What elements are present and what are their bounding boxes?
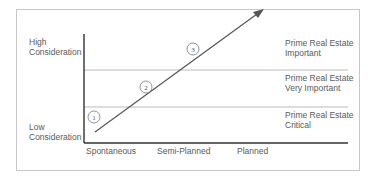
zone-important-line1: Prime Real Estate [285,38,354,48]
zone-label-important: Prime Real Estate Important [285,38,354,58]
x-tick-planned: Planned [237,146,268,156]
svg-text:1: 1 [92,114,96,122]
x-tick-semi-planned: Semi-Planned [157,146,210,156]
zone-very-important-line2: Very Important [285,83,354,93]
trend-arrow-line [95,14,257,132]
arrow-head-icon [253,9,264,18]
zone-very-important-line1: Prime Real Estate [285,73,354,83]
y-high-line2: Consideration [29,47,81,57]
marker-2: 2 [140,81,152,93]
zone-label-critical: Prime Real Estate Critical [285,110,354,130]
svg-text:2: 2 [144,84,148,92]
marker-1: 1 [88,111,100,123]
zone-label-very-important: Prime Real Estate Very Important [285,73,354,93]
marker-3: 3 [187,43,199,55]
y-low-line2: Consideration [29,132,81,142]
y-high-line1: High [29,37,81,47]
y-high-label: High Consideration [29,37,81,57]
zone-critical-line1: Prime Real Estate [285,110,354,120]
svg-text:3: 3 [191,46,195,54]
x-tick-spontaneous: Spontaneous [86,146,136,156]
zone-critical-line2: Critical [285,120,354,130]
zone-important-line2: Important [285,48,354,58]
y-low-line1: Low [29,122,81,132]
y-low-label: Low Consideration [29,122,81,142]
